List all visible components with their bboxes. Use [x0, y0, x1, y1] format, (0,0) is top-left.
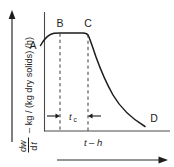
y-axis-denominator-d: d: [29, 146, 39, 151]
point-label-a: A: [29, 39, 36, 51]
constant-rate-symbol: t: [69, 111, 72, 122]
y-axis-denominator-variable: t: [29, 142, 39, 145]
y-axis-label-text: – kg / (kg dry solids) (h): [24, 37, 34, 133]
drying-rate-curve: [41, 33, 146, 127]
y-axis-direction-arrow-icon: [9, 10, 16, 142]
y-axis-numerator: dw: [18, 139, 28, 152]
drying-rate-chart-figure: dw d t – kg / (kg dry solids) (h) A B C …: [0, 0, 174, 167]
x-axis-label-unit: h: [97, 137, 102, 148]
x-axis-label-variable: t: [84, 137, 87, 148]
x-axis-label-dash: –: [89, 137, 95, 148]
constant-rate-dimension: t c: [47, 111, 101, 123]
chart-canvas: dw d t – kg / (kg dry solids) (h) A B C …: [0, 0, 174, 167]
point-label-d: D: [150, 112, 158, 124]
point-label-c: C: [84, 17, 92, 29]
x-axis-label: t – h: [84, 137, 102, 148]
point-label-b: B: [56, 17, 63, 29]
y-axis-label: dw d t – kg / (kg dry solids) (h): [18, 37, 40, 152]
constant-rate-subscript: c: [73, 116, 77, 123]
x-axis-direction-arrow-icon: [57, 156, 168, 163]
